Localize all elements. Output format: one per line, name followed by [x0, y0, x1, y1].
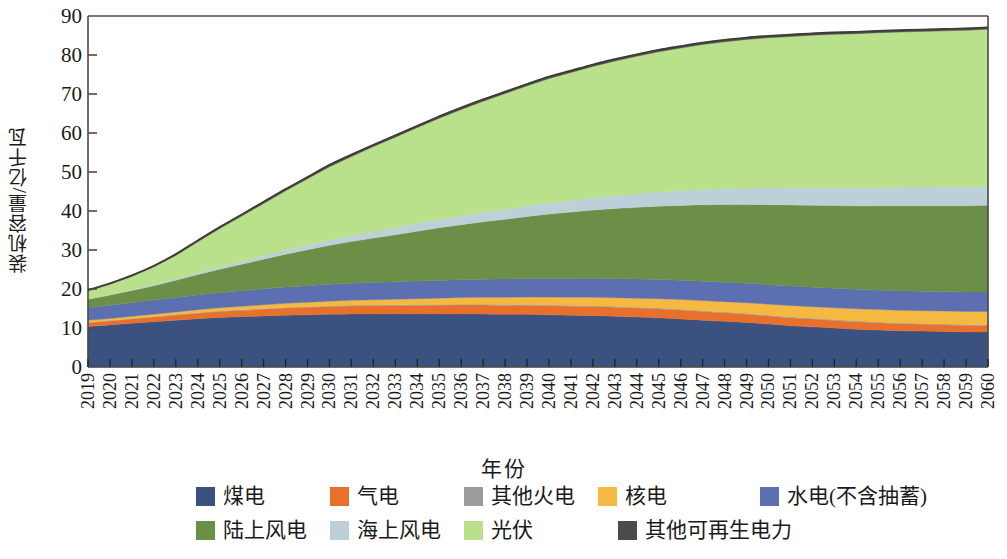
legend-label: 煤电 [223, 486, 265, 507]
legend-swatch-icon [598, 487, 617, 506]
legend-item[interactable]: 煤电 [196, 486, 265, 507]
x-axis-tick-label: 2053 [825, 373, 843, 409]
legend-swatch-icon [464, 521, 483, 540]
legend-item[interactable]: 水电(不含抽蓄) [760, 486, 927, 507]
x-axis-tick-label: 2019 [79, 373, 97, 409]
x-axis-tick-label: 2052 [803, 373, 821, 409]
x-axis-tick-label: 2037 [474, 373, 492, 409]
x-axis-tick-label: 2029 [299, 373, 317, 409]
legend-swatch-icon [760, 487, 779, 506]
x-axis-tick-label: 2047 [694, 373, 712, 409]
legend-item[interactable]: 陆上风电 [196, 520, 307, 541]
x-axis-tick-label: 2039 [518, 373, 536, 409]
x-axis-tick-label: 2045 [650, 373, 668, 409]
legend-label: 水电(不含抽蓄) [787, 486, 927, 507]
legend-item[interactable]: 光伏 [464, 520, 533, 541]
x-axis-tick-label: 2038 [496, 373, 514, 409]
x-axis-tick-label: 2022 [145, 373, 163, 409]
legend-item[interactable]: 核电 [598, 486, 667, 507]
x-axis-tick-label: 2051 [781, 373, 799, 409]
x-axis-tick-label: 2031 [342, 373, 360, 409]
x-axis-tick-label: 2048 [716, 373, 734, 409]
x-axis-title: 年份 [0, 452, 1007, 482]
legend-swatch-icon [330, 521, 349, 540]
x-axis-tick-label: 2041 [562, 373, 580, 409]
legend-label: 其他可再生电力 [645, 520, 792, 541]
legend-item[interactable]: 其他火电 [464, 486, 575, 507]
legend-item[interactable]: 海上风电 [330, 520, 441, 541]
x-axis-tick-label: 2030 [320, 373, 338, 409]
legend-swatch-icon [464, 487, 483, 506]
x-axis-tick-label: 2036 [452, 373, 470, 409]
x-axis-tick-label: 2046 [672, 373, 690, 409]
x-axis-tick-label: 2040 [540, 373, 558, 409]
legend-label: 气电 [357, 486, 399, 507]
chart-legend: 煤电气电其他火电核电水电(不含抽蓄)陆上风电海上风电光伏其他可再生电力 [0, 486, 1007, 556]
legend-item[interactable]: 气电 [330, 486, 399, 507]
plot-area [0, 0, 1007, 380]
x-axis-tick-label: 2056 [891, 373, 909, 409]
x-axis-tick-label: 2021 [123, 373, 141, 409]
legend-label: 陆上风电 [223, 520, 307, 541]
x-axis-tick-label: 2020 [101, 373, 119, 409]
legend-swatch-icon [330, 487, 349, 506]
x-axis-tick-label: 2023 [167, 373, 185, 409]
x-axis-tick-label: 2050 [759, 373, 777, 409]
x-axis-tick-label: 2028 [277, 373, 295, 409]
x-axis-tick-label: 2043 [606, 373, 624, 409]
x-axis-tick-label: 2044 [628, 373, 646, 409]
legend-swatch-icon [196, 521, 215, 540]
x-axis-tick-label: 2049 [738, 373, 756, 409]
x-axis-tick-label: 2024 [189, 373, 207, 409]
x-axis-tick-label: 2032 [364, 373, 382, 409]
x-axis-tick-label: 2054 [847, 373, 865, 409]
x-axis-tick-label: 2035 [430, 373, 448, 409]
x-axis-tick-label: 2026 [233, 373, 251, 409]
x-axis-tick-label: 2060 [979, 373, 997, 409]
x-axis-tick-label: 2055 [869, 373, 887, 409]
x-axis-tick-label: 2058 [935, 373, 953, 409]
legend-swatch-icon [618, 521, 637, 540]
legend-label: 海上风电 [357, 520, 441, 541]
legend-item[interactable]: 其他可再生电力 [618, 520, 792, 541]
stacked-area-chart: 装机容量/亿千瓦 0102030405060708090 20192020202… [0, 0, 1007, 559]
x-axis-tick-label: 2033 [386, 373, 404, 409]
legend-swatch-icon [196, 487, 215, 506]
legend-label: 其他火电 [491, 486, 575, 507]
legend-label: 光伏 [491, 520, 533, 541]
x-axis-tick-label: 2034 [408, 373, 426, 409]
x-axis-tick-label: 2042 [584, 373, 602, 409]
x-axis-tick-label: 2059 [957, 373, 975, 409]
x-axis-tick-label: 2057 [913, 373, 931, 409]
x-axis-tick-label: 2027 [255, 373, 273, 409]
x-axis-tick-label: 2025 [211, 373, 229, 409]
legend-label: 核电 [625, 486, 667, 507]
